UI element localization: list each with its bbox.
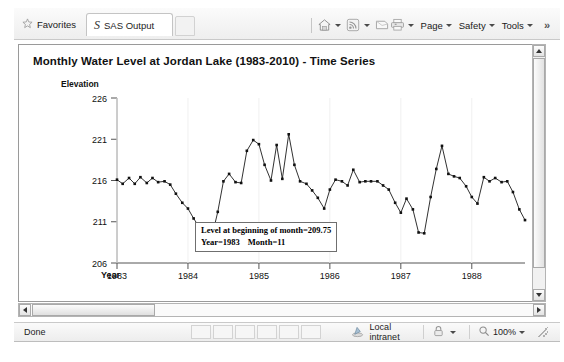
- data-tooltip: Level at beginning of month=209.75 Year=…: [195, 222, 337, 252]
- star-icon: [22, 18, 33, 31]
- svg-text:226: 226: [92, 94, 107, 104]
- menu-tools[interactable]: Tools: [502, 20, 538, 31]
- internet-zone-icon: [351, 326, 365, 338]
- zoom-control[interactable]: 100%: [469, 325, 530, 339]
- status-cell: [257, 325, 277, 339]
- protected-mode-indicator[interactable]: [423, 325, 461, 339]
- svg-text:1983: 1983: [107, 271, 127, 281]
- svg-text:1986: 1986: [320, 271, 340, 281]
- page-dropdown-caret[interactable]: [446, 24, 452, 27]
- scroll-up-icon[interactable]: [533, 45, 545, 57]
- vertical-scrollbar[interactable]: [532, 44, 546, 302]
- status-text: Done: [24, 327, 173, 337]
- home-dropdown-caret[interactable]: [335, 24, 341, 27]
- favorites-label: Favorites: [37, 19, 76, 30]
- tab-strip: S SAS Output: [86, 12, 195, 36]
- tab-sas-output[interactable]: S SAS Output: [86, 13, 173, 36]
- sas-logo-icon: S: [94, 18, 100, 33]
- tab-label: SAS Output: [104, 20, 154, 31]
- print-icon[interactable]: [390, 18, 405, 32]
- horizontal-scroll-thumb[interactable]: [32, 304, 155, 316]
- svg-text:1988: 1988: [462, 271, 482, 281]
- tooltip-year: Year=1983: [201, 237, 240, 247]
- rss-dropdown-caret[interactable]: [364, 24, 370, 27]
- status-cell: [279, 325, 299, 339]
- status-cell: [301, 325, 321, 339]
- status-bar: Done Local intranet: [14, 322, 560, 342]
- print-dropdown-caret[interactable]: [408, 24, 414, 27]
- mail-icon[interactable]: [375, 18, 390, 32]
- new-tab-button[interactable]: [175, 16, 195, 36]
- favorites-button[interactable]: Favorites: [22, 14, 76, 34]
- status-right: 100%: [423, 325, 548, 339]
- command-bar: Page Safety Tools »: [306, 15, 550, 35]
- svg-text:221: 221: [92, 135, 107, 145]
- browser-window: Favorites S SAS Output: [0, 0, 564, 362]
- menu-page[interactable]: Page: [421, 20, 457, 31]
- zoom-icon: [478, 325, 493, 339]
- horizontal-scrollbar[interactable]: [18, 303, 546, 317]
- status-cells: [191, 325, 323, 339]
- zoom-dropdown-caret[interactable]: [519, 331, 525, 334]
- tooltip-line-1: Level at beginning of month=209.75: [201, 225, 331, 237]
- svg-text:1984: 1984: [178, 271, 198, 281]
- status-cell: [191, 325, 211, 339]
- menu-page-label: Page: [421, 20, 443, 31]
- lock-icon: [432, 325, 447, 339]
- security-zone[interactable]: Local intranet: [351, 322, 423, 342]
- svg-text:216: 216: [92, 176, 107, 186]
- status-cell: [235, 325, 255, 339]
- tooltip-month: Month=11: [248, 237, 285, 247]
- protected-mode-caret[interactable]: [450, 331, 456, 334]
- safety-dropdown-caret[interactable]: [489, 24, 495, 27]
- scroll-down-icon[interactable]: [533, 289, 545, 301]
- tooltip-line-2: Year=1983Month=11: [201, 237, 331, 249]
- page-content: Monthly Water Level at Jordan Lake (1983…: [18, 44, 546, 302]
- vertical-scroll-thumb[interactable]: [533, 58, 545, 268]
- menu-safety-label: Safety: [459, 20, 486, 31]
- rss-feed-icon[interactable]: [346, 18, 361, 32]
- zoom-level-label: 100%: [493, 327, 516, 337]
- svg-text:1987: 1987: [391, 271, 411, 281]
- toolbar-overflow-icon[interactable]: »: [544, 19, 550, 31]
- toolbar-divider: [311, 18, 312, 33]
- home-icon[interactable]: [317, 18, 332, 32]
- svg-text:1985: 1985: [249, 271, 269, 281]
- menu-safety[interactable]: Safety: [459, 20, 500, 31]
- status-cell: [213, 325, 233, 339]
- resize-grip[interactable]: [538, 327, 548, 337]
- menu-tools-label: Tools: [502, 20, 524, 31]
- svg-text:206: 206: [92, 259, 107, 269]
- time-series-plot: 206211216221226198319841985198619871988: [19, 45, 546, 302]
- svg-text:211: 211: [93, 217, 107, 227]
- scroll-left-icon[interactable]: [19, 304, 31, 316]
- scroll-right-icon[interactable]: [533, 304, 545, 316]
- security-zone-label: Local intranet: [370, 322, 423, 342]
- tools-dropdown-caret[interactable]: [527, 24, 533, 27]
